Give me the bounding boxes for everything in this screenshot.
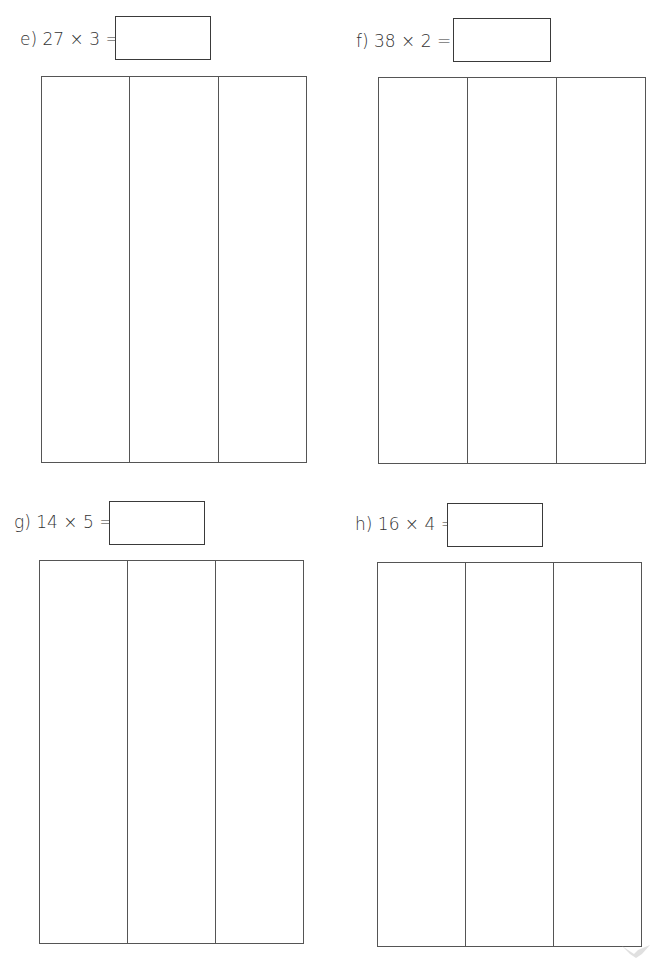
question-e-answer-box[interactable] <box>115 16 211 60</box>
grid-column[interactable] <box>557 78 645 463</box>
grid-column[interactable] <box>216 561 303 943</box>
question-e-label: e) 27 × 3 = <box>20 29 120 49</box>
grid-column[interactable] <box>466 563 554 946</box>
question-g-grid[interactable] <box>39 560 304 944</box>
question-f-label: f) 38 × 2 = <box>356 31 451 51</box>
question-f-grid[interactable] <box>378 77 646 464</box>
question-h-label: h) 16 × 4 = <box>355 514 455 534</box>
grid-column[interactable] <box>128 561 216 943</box>
question-h-grid[interactable] <box>377 562 642 947</box>
question-f-answer-box[interactable] <box>453 18 551 62</box>
question-g-answer-box[interactable] <box>109 501 205 545</box>
grid-column[interactable] <box>379 78 468 463</box>
question-h-answer-box[interactable] <box>447 503 543 547</box>
grid-column[interactable] <box>219 77 306 462</box>
grid-column[interactable] <box>554 563 641 946</box>
grid-column[interactable] <box>42 77 130 462</box>
question-g-label: g) 14 × 5 = <box>14 512 113 532</box>
grid-column[interactable] <box>130 77 218 462</box>
grid-column[interactable] <box>468 78 557 463</box>
grid-column[interactable] <box>40 561 128 943</box>
grid-column[interactable] <box>378 563 466 946</box>
question-e-grid[interactable] <box>41 76 307 463</box>
bird-logo-icon <box>620 944 652 960</box>
